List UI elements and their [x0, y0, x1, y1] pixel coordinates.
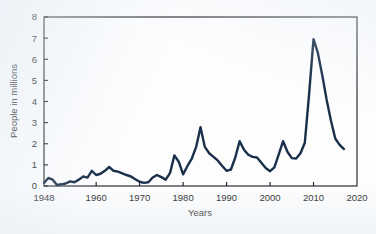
line-chart: 012345678 194819601970198019902000201020…: [0, 0, 376, 234]
x-tick-label: 1948: [33, 192, 54, 203]
x-axis-title: Years: [188, 207, 212, 218]
data-series-group: [44, 39, 344, 185]
x-tick-label: 2000: [259, 192, 280, 203]
y-tick-label: 4: [32, 96, 37, 107]
y-tick-label: 5: [32, 75, 37, 86]
y-tick-label: 0: [32, 180, 37, 191]
y-tick-label: 2: [32, 138, 37, 149]
y-tick-label: 7: [32, 33, 37, 44]
y-axis-tickmarks: [44, 17, 48, 186]
chart-figure: 012345678 194819601970198019902000201020…: [0, 0, 376, 234]
x-tick-label: 2010: [303, 192, 324, 203]
x-tick-label: 1960: [86, 192, 107, 203]
y-tick-label: 1: [32, 159, 37, 170]
y-tick-label: 3: [32, 117, 37, 128]
x-tick-label: 1980: [173, 192, 194, 203]
series-line-people-in-millions: [44, 39, 344, 185]
x-tick-label: 1990: [216, 192, 237, 203]
y-axis-tick-labels: 012345678: [32, 11, 37, 191]
y-axis-title: People in millions: [8, 64, 19, 138]
y-tick-label: 6: [32, 54, 37, 65]
y-tick-label: 8: [32, 11, 37, 22]
plot-area-frame: [44, 17, 357, 186]
x-tick-label: 2020: [346, 192, 367, 203]
x-axis-tick-labels: 19481960197019801990200020102020: [33, 192, 367, 203]
x-axis-tickmarks: [96, 182, 313, 186]
x-tick-label: 1970: [129, 192, 150, 203]
